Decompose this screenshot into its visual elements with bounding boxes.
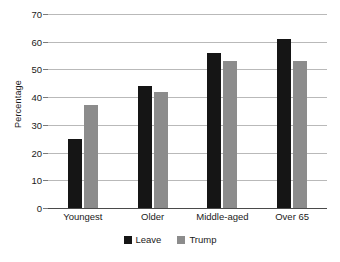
bar-group [68, 14, 98, 208]
legend-label: Leave [136, 234, 162, 245]
bar-trump-older [154, 92, 168, 208]
bar-group [207, 14, 237, 208]
bar-trump-middle-aged [223, 61, 237, 208]
bar-chart: Percentage 706050403020100 YoungestOlder… [0, 0, 340, 262]
bar-group [138, 14, 168, 208]
bar-leave-middle-aged [207, 53, 221, 208]
y-axis-tick-label: 70 [2, 9, 42, 20]
x-axis-category-label: Over 65 [275, 211, 309, 222]
y-axis-tick-label: 0 [2, 203, 42, 214]
y-axis-tick-label: 30 [2, 119, 42, 130]
y-axis-tick-label: 60 [2, 36, 42, 47]
y-axis-tick-labels: 706050403020100 [0, 14, 42, 208]
bar-leave-youngest [68, 139, 82, 208]
y-axis-tick-label: 40 [2, 92, 42, 103]
legend-swatch-icon [124, 236, 132, 244]
bar-leave-over-65 [277, 39, 291, 208]
y-axis-tick-label: 50 [2, 64, 42, 75]
legend-label: Trump [189, 234, 216, 245]
bar-trump-youngest [84, 105, 98, 208]
bar-leave-older [138, 86, 152, 208]
x-axis-category-label: Older [141, 211, 164, 222]
y-axis-tick-label: 20 [2, 147, 42, 158]
bar-group [277, 14, 307, 208]
x-axis-category-label: Middle-aged [196, 211, 248, 222]
legend-item-leave[interactable]: Leave [124, 234, 162, 245]
legend-swatch-icon [177, 236, 185, 244]
plot-area [48, 14, 327, 208]
x-axis-category-labels: YoungestOlderMiddle-agedOver 65 [48, 211, 327, 227]
bar-trump-over-65 [293, 61, 307, 208]
x-axis-baseline [48, 208, 327, 209]
x-axis-category-label: Youngest [63, 211, 102, 222]
legend-item-trump[interactable]: Trump [177, 234, 216, 245]
bar-groups [48, 14, 327, 208]
chart-legend: LeaveTrump [0, 234, 340, 245]
y-axis-tick-mark [43, 208, 48, 209]
y-axis-tick-label: 10 [2, 175, 42, 186]
